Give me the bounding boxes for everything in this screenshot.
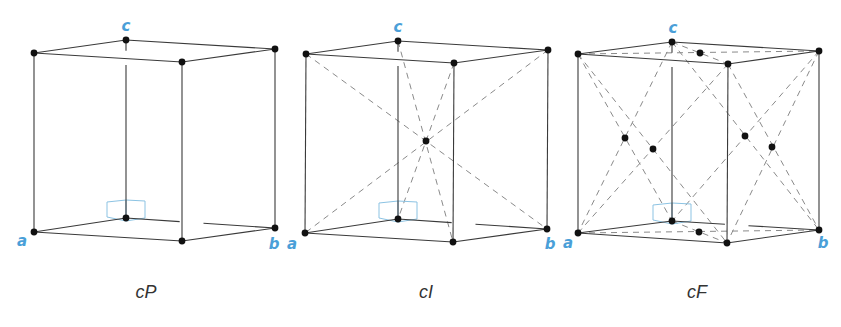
cf-face-center-atom [769, 144, 776, 151]
cp-axis-label-b: b [269, 237, 280, 252]
cp-edge [34, 53, 182, 62]
cp-edge [34, 40, 126, 53]
cf-edge [578, 221, 672, 233]
cf-corner-atom [816, 227, 823, 234]
cubic-lattices-drawing [0, 0, 841, 327]
cf-axis-label-a: a [563, 236, 573, 251]
cf-edge [727, 230, 819, 243]
cf-axis-label-b: b [818, 236, 829, 251]
cp-corner-atom [123, 215, 130, 222]
cp-corner-atom [31, 229, 38, 236]
ci-corner-atom [451, 60, 458, 67]
cp-edge [126, 40, 275, 49]
cf-corner-atom [575, 230, 582, 237]
ci-edge [453, 229, 547, 242]
cp-edge [182, 49, 275, 62]
cp-corner-atom [123, 37, 130, 44]
cf-corner-atom [816, 48, 823, 55]
cp-edge [34, 218, 126, 232]
cf-edge [578, 42, 672, 54]
cf-face-center-atom [742, 133, 749, 140]
ci-caption: cI [419, 283, 433, 301]
cf-corner-atom [575, 51, 582, 58]
ci-edge [547, 50, 548, 229]
cp-corner-atom [179, 59, 186, 66]
cf-face-center-atom [697, 50, 704, 57]
cf-face-center-atom [650, 146, 657, 153]
ci-edge [453, 63, 454, 242]
cp-axis-label-c: c [122, 19, 131, 34]
cf-edge-hidden [748, 226, 819, 230]
cf-caption: cF [687, 283, 707, 301]
ci-edge [398, 41, 548, 50]
ci-axis-label-c: c [394, 20, 403, 35]
ci-edge [305, 54, 306, 233]
ci-corner-atom [544, 226, 551, 233]
cp-corner-atom [272, 225, 279, 232]
cf-edge [727, 64, 728, 243]
ci-edge [306, 54, 454, 63]
ci-edge [305, 233, 453, 242]
cf-edge [672, 42, 819, 51]
ci-corner-atom [395, 38, 402, 45]
ci-edge-hidden [475, 224, 547, 229]
cp-edge [34, 232, 182, 241]
ci-corner-atom [395, 216, 402, 223]
ci-axis-label-a: a [287, 237, 297, 252]
cf-corner-atom [669, 39, 676, 46]
cf-corner-atom [724, 240, 731, 247]
ci-edge [305, 219, 398, 233]
ci-edge [306, 41, 398, 54]
cp-corner-atom [179, 238, 186, 245]
cp-edge-hidden [203, 223, 275, 228]
bravais-lattice-diagram: c a b cP c a b cI c a b cF [0, 0, 841, 327]
cp-corner-atom [31, 50, 38, 57]
cf-face-center-atom [622, 135, 629, 142]
cf-corner-atom [669, 218, 676, 225]
ci-corner-atom [303, 51, 310, 58]
ci-corner-atom [450, 239, 457, 246]
ci-edge [454, 50, 548, 63]
cf-edge [728, 51, 819, 64]
cp-corner-atom [272, 46, 279, 53]
ci-axis-label-b: b [545, 237, 556, 252]
ci-body-center-atom [423, 138, 430, 145]
ci-corner-atom [302, 230, 309, 237]
cp-edge [182, 228, 275, 241]
ci-corner-atom [545, 47, 552, 54]
cf-face-center-atom [696, 229, 703, 236]
cp-caption: cP [135, 283, 156, 301]
cf-axis-label-c: c [669, 21, 678, 36]
cp-axis-label-a: a [17, 234, 27, 249]
cf-corner-atom [725, 61, 732, 68]
